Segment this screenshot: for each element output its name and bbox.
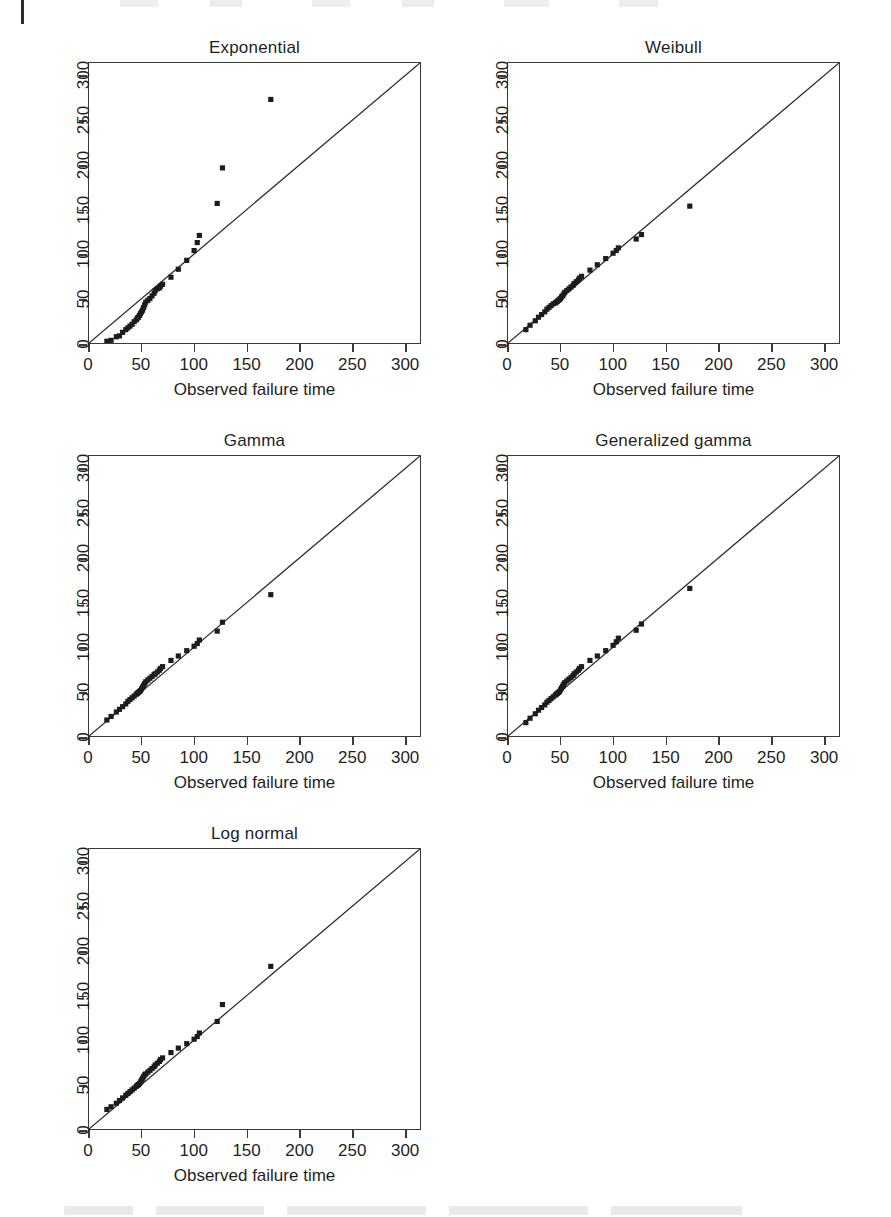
x-tick-label: 150 — [232, 748, 260, 768]
x-tick-label: 50 — [550, 748, 569, 768]
x-tick-label: 250 — [757, 748, 785, 768]
x-tick-label: 150 — [651, 355, 679, 375]
y-tick-label: 300 — [74, 847, 94, 875]
x-tick-label: 100 — [599, 355, 627, 375]
x-tick-mark — [247, 737, 249, 745]
x-tick-mark — [613, 737, 615, 745]
x-tick-label: 200 — [704, 748, 732, 768]
x-axis-label: Observed failure time — [88, 1166, 421, 1186]
x-tick-mark — [560, 737, 562, 745]
x-axis-label: Observed failure time — [88, 773, 421, 793]
x-axis: 050100150200250300 — [88, 737, 421, 767]
y-tick-label: 250 — [74, 892, 94, 920]
x-tick-label: 0 — [83, 748, 92, 768]
x-tick-label: 0 — [502, 748, 511, 768]
x-tick-mark — [666, 344, 668, 352]
y-tick-label: 50 — [493, 683, 513, 702]
x-tick-mark — [247, 1130, 249, 1138]
panel-title: Generalized gamma — [507, 431, 840, 451]
x-tick-mark — [141, 1130, 143, 1138]
x-tick-mark — [560, 344, 562, 352]
y-tick-label: 50 — [74, 290, 94, 309]
x-tick-mark — [352, 1130, 354, 1138]
y-tick-label: 50 — [493, 290, 513, 309]
x-axis-label: Observed failure time — [507, 773, 840, 793]
x-tick-mark — [771, 737, 773, 745]
y-tick-label: 200 — [74, 937, 94, 965]
x-tick-label: 50 — [131, 1141, 150, 1161]
x-tick-label: 100 — [180, 355, 208, 375]
x-tick-mark — [194, 737, 196, 745]
y-tick-label: 50 — [74, 1076, 94, 1095]
x-tick-mark — [666, 737, 668, 745]
x-tick-mark — [299, 344, 301, 352]
x-tick-label: 0 — [83, 1141, 92, 1161]
panel-title: Gamma — [88, 431, 421, 451]
x-axis: 050100150200250300 — [507, 344, 840, 374]
x-tick-mark — [824, 344, 826, 352]
x-tick-mark — [352, 737, 354, 745]
x-tick-mark — [352, 344, 354, 352]
y-tick-label: 0 — [493, 339, 513, 348]
y-tick-label: 300 — [493, 61, 513, 89]
x-tick-label: 200 — [285, 1141, 313, 1161]
x-tick-label: 300 — [391, 355, 419, 375]
x-axis: 050100150200250300 — [507, 737, 840, 767]
y-tick-label: 100 — [74, 240, 94, 268]
y-tick-label: 150 — [493, 196, 513, 224]
scan-artifact-top — [120, 0, 760, 7]
x-tick-label: 150 — [232, 1141, 260, 1161]
plot-area — [88, 455, 421, 737]
x-tick-label: 50 — [131, 748, 150, 768]
x-axis-label: Observed failure time — [507, 380, 840, 400]
y-tick-label: 150 — [74, 589, 94, 617]
y-tick-label: 250 — [493, 499, 513, 527]
x-tick-mark — [405, 344, 407, 352]
x-tick-mark — [194, 344, 196, 352]
y-tick-label: 300 — [493, 454, 513, 482]
y-tick-label: 0 — [74, 732, 94, 741]
x-tick-label: 150 — [232, 355, 260, 375]
x-tick-label: 100 — [180, 748, 208, 768]
x-tick-label: 300 — [810, 748, 838, 768]
x-tick-label: 200 — [285, 748, 313, 768]
scan-artifact-bottom-caption — [64, 1206, 834, 1215]
y-tick-label: 200 — [74, 151, 94, 179]
x-tick-label: 0 — [83, 355, 92, 375]
y-tick-label: 300 — [74, 61, 94, 89]
x-tick-label: 300 — [391, 1141, 419, 1161]
y-tick-label: 50 — [74, 683, 94, 702]
x-axis: 050100150200250300 — [88, 1130, 421, 1160]
x-tick-mark — [141, 737, 143, 745]
x-tick-mark — [194, 1130, 196, 1138]
y-tick-label: 250 — [493, 106, 513, 134]
x-tick-mark — [299, 737, 301, 745]
plot-area — [507, 455, 840, 737]
x-tick-mark — [613, 344, 615, 352]
x-tick-label: 300 — [810, 355, 838, 375]
x-axis: 050100150200250300 — [88, 344, 421, 374]
panel-title: Exponential — [88, 38, 421, 58]
x-axis-label: Observed failure time — [88, 380, 421, 400]
x-tick-label: 200 — [285, 355, 313, 375]
y-tick-label: 200 — [493, 544, 513, 572]
x-tick-label: 250 — [338, 1141, 366, 1161]
x-tick-mark — [299, 1130, 301, 1138]
y-tick-label: 0 — [74, 339, 94, 348]
plot-area — [88, 62, 421, 344]
x-tick-label: 250 — [338, 748, 366, 768]
y-tick-label: 0 — [493, 732, 513, 741]
x-tick-mark — [405, 1130, 407, 1138]
y-tick-label: 200 — [74, 544, 94, 572]
y-tick-label: 250 — [74, 106, 94, 134]
x-tick-label: 50 — [550, 355, 569, 375]
y-tick-label: 100 — [74, 633, 94, 661]
x-tick-label: 100 — [599, 748, 627, 768]
x-tick-mark — [771, 344, 773, 352]
panel-title: Log normal — [88, 824, 421, 844]
y-tick-label: 150 — [74, 196, 94, 224]
y-tick-label: 0 — [74, 1125, 94, 1134]
y-tick-label: 100 — [74, 1026, 94, 1054]
x-tick-label: 300 — [391, 748, 419, 768]
x-tick-label: 200 — [704, 355, 732, 375]
